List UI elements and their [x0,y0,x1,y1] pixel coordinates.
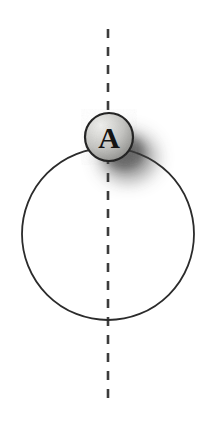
ball-group: A [85,113,134,161]
figure-canvas: A [0,0,213,423]
ball-label-a: A [98,121,120,154]
diagram-svg: A [0,0,213,423]
